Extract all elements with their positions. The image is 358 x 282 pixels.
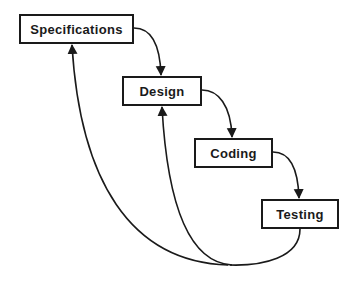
stage-label: Coding xyxy=(210,146,257,161)
feedback-testing-base xyxy=(230,229,300,265)
stage-testing: Testing xyxy=(261,199,339,229)
stage-label: Testing xyxy=(276,207,323,222)
stage-coding: Coding xyxy=(194,138,273,168)
arrow-spec-to-design xyxy=(134,28,161,75)
stage-specifications: Specifications xyxy=(19,14,134,44)
arrow-testing-to-design xyxy=(162,107,232,265)
stage-label: Design xyxy=(139,84,184,99)
waterfall-diagram: Specifications Design Coding Testing xyxy=(0,0,358,282)
stage-design: Design xyxy=(122,76,202,106)
arrow-design-to-coding xyxy=(202,90,232,137)
stage-label: Specifications xyxy=(30,22,122,37)
arrow-coding-to-testing xyxy=(273,152,299,198)
